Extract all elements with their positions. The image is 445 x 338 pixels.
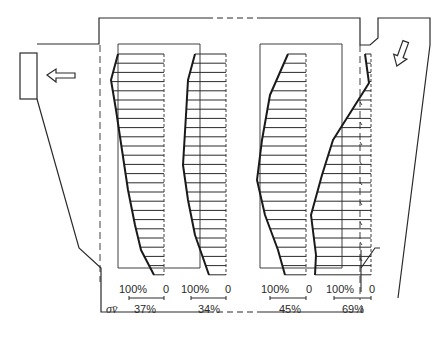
outlet-arrow-icon <box>47 69 75 82</box>
profile-2-scale-bar <box>191 296 226 300</box>
profile-4-scale-right: 0 <box>369 284 375 295</box>
profile-3-scale-right: 0 <box>306 284 312 295</box>
profile-2-scale-left: 100% <box>181 284 209 295</box>
diagram-canvas: 100% 0 100% 0 100% 0 100% 0 σv̄ 37% 34% … <box>0 0 445 338</box>
profile-1-sigma: 37% <box>134 304 156 315</box>
profile-4-scale-left: 100% <box>326 284 354 295</box>
profile-4-scale-bar <box>334 296 371 300</box>
profile-4-bottom-line <box>361 248 380 268</box>
profile-4-sigma: 69% <box>342 304 364 315</box>
profile-2-scale-right: 0 <box>225 284 231 295</box>
profile-1-scale-right: 0 <box>163 284 169 295</box>
profile-2-sigma: 34% <box>198 304 220 315</box>
profile-3-scale-left: 100% <box>261 284 289 295</box>
profile-1-scale-left: 100% <box>119 284 147 295</box>
hatch-lines <box>111 54 371 275</box>
duct-schematic <box>0 0 445 338</box>
sigma-label: σv̄ <box>106 303 117 315</box>
profile-3-sigma: 45% <box>279 304 301 315</box>
profile-3-scale-bar <box>270 296 306 300</box>
profile-1-scale-bar <box>129 296 164 300</box>
outlet-stub <box>20 53 37 99</box>
inlet-arrow-icon <box>390 39 412 68</box>
